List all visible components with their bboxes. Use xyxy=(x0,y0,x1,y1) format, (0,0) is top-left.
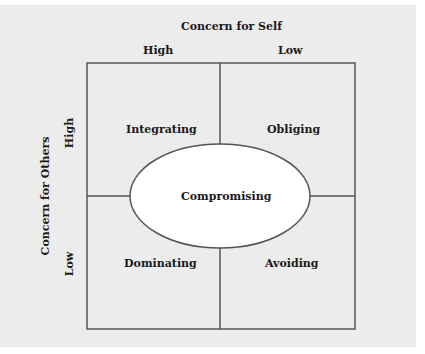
row-label-low: Low xyxy=(63,252,76,277)
center-compromising: Compromising xyxy=(181,190,271,203)
quadrant-avoiding: Avoiding xyxy=(265,257,319,270)
quadrant-obliging: Obliging xyxy=(267,123,320,136)
quadrant-dominating: Dominating xyxy=(124,257,197,270)
quadrant-integrating: Integrating xyxy=(126,123,197,136)
concern-for-self-title: Concern for Self xyxy=(181,20,282,33)
grid-diagram xyxy=(0,0,425,354)
row-label-high: High xyxy=(63,118,76,148)
col-label-high: High xyxy=(143,44,173,57)
col-label-low: Low xyxy=(278,44,303,57)
concern-for-others-title: Concern for Others xyxy=(39,137,52,256)
